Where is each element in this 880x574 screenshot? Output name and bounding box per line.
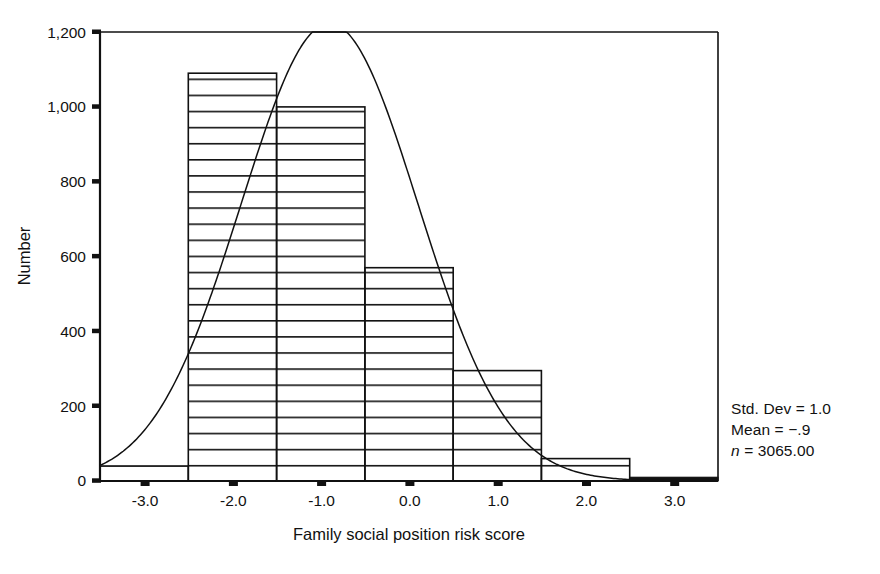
chart-canvas: 1,200 1,000 800 600 400 200 0 Number <box>0 0 880 574</box>
x-tick-label: 0.0 <box>399 492 421 509</box>
n-value: = 3065.00 <box>740 442 815 459</box>
y-tick-label: 400 <box>60 323 86 340</box>
std-dev-label: Std. Dev = 1.0 <box>731 398 831 419</box>
x-tick-label: 3.0 <box>664 492 686 509</box>
bar-bin-6 <box>541 459 629 481</box>
bar-bin-4 <box>365 268 453 481</box>
y-tick-label: 0 <box>77 472 86 489</box>
y-tick-label: 600 <box>60 248 86 265</box>
y-tick-label: 800 <box>60 173 86 190</box>
y-tick-label: 1,000 <box>47 98 86 115</box>
n-symbol: n <box>731 442 740 459</box>
y-axis-title: Number <box>15 226 33 285</box>
histogram-figure: 1,200 1,000 800 600 400 200 0 Number <box>0 0 880 574</box>
y-tick-label: 200 <box>60 398 86 415</box>
bar-bin-5 <box>453 371 541 481</box>
x-axis-title: Family social position risk score <box>293 525 525 543</box>
x-tick-label: -2.0 <box>220 492 247 509</box>
bar-bin-3 <box>277 107 365 481</box>
y-tick-label: 1,200 <box>47 24 86 41</box>
bar-bin-1 <box>100 466 188 481</box>
stats-annotation: Std. Dev = 1.0 Mean = −.9 n = 3065.00 <box>731 398 831 461</box>
x-tick-label: 2.0 <box>576 492 598 509</box>
x-tick-label: 1.0 <box>487 492 509 509</box>
x-tick-label: -3.0 <box>132 492 159 509</box>
sample-size-label: n = 3065.00 <box>731 440 831 461</box>
mean-label: Mean = −.9 <box>731 419 831 440</box>
x-tick-label: -1.0 <box>308 492 335 509</box>
